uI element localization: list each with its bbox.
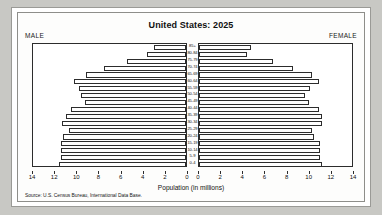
table-row	[33, 121, 186, 126]
table-row	[199, 155, 352, 160]
axis-tick-label: 2	[163, 174, 166, 180]
bar-male-20-24	[63, 134, 186, 139]
table-row	[199, 100, 352, 105]
pyramid-plot: 85+80-8475-7970-7465-6960-6455-5950-5445…	[18, 43, 364, 171]
bar-female-45-49	[199, 100, 309, 105]
table-row	[199, 121, 352, 126]
bar-male-70-74	[104, 66, 186, 71]
bar-female-25-29	[199, 128, 312, 133]
bar-female-5-9	[199, 155, 320, 160]
axis-tick-label: 14	[350, 174, 357, 180]
bar-female-85+	[199, 45, 251, 50]
table-row	[199, 107, 352, 112]
bar-female-60-64	[199, 79, 319, 84]
axis-tick-label: 14	[29, 174, 36, 180]
age-group-label: 60-64	[187, 79, 198, 83]
age-group-label: 15-19	[187, 141, 198, 145]
table-row	[33, 66, 186, 71]
table-row	[199, 114, 352, 119]
table-row	[33, 141, 186, 146]
age-group-label: 65-69	[187, 72, 198, 76]
age-group-label: 10-14	[187, 148, 198, 152]
age-group-label: 20-24	[187, 134, 198, 138]
age-group-label: 40-44	[187, 106, 198, 110]
table-row	[33, 134, 186, 139]
age-group-label: 5-9	[187, 154, 198, 158]
bar-female-35-39	[199, 114, 322, 119]
table-row	[33, 45, 186, 50]
age-group-label: 35-39	[187, 113, 198, 117]
table-row	[199, 59, 352, 64]
age-group-label: 45-49	[187, 99, 198, 103]
age-group-label: 75-79	[187, 58, 198, 62]
table-row	[33, 107, 186, 112]
chart-card: United States: 2025 MALE FEMALE 85+80-84…	[11, 7, 371, 207]
bar-male-85+	[154, 45, 186, 50]
table-row	[199, 148, 352, 153]
bar-male-50-54	[81, 93, 186, 98]
axis-tick-label: 2	[218, 174, 221, 180]
axis-tick-label: 12	[328, 174, 335, 180]
bar-male-60-64	[74, 79, 186, 84]
bar-female-65-69	[199, 72, 312, 77]
axis-tick-label: 10	[73, 174, 80, 180]
bar-female-30-34	[199, 121, 322, 126]
bar-female-0-4	[199, 162, 322, 167]
axis-tick-label: 12	[51, 174, 58, 180]
axis-tick-label: 4	[141, 174, 144, 180]
table-row	[33, 155, 186, 160]
axis-tick-label: 6	[263, 174, 266, 180]
bar-male-40-44	[71, 107, 186, 112]
table-row	[33, 162, 186, 167]
table-row	[199, 162, 352, 167]
bar-male-45-49	[85, 100, 186, 105]
table-row	[199, 52, 352, 57]
table-row	[33, 72, 186, 77]
bar-male-30-34	[62, 121, 186, 126]
bar-male-55-59	[79, 86, 186, 91]
bar-female-10-14	[199, 148, 320, 153]
bar-female-75-79	[199, 59, 273, 64]
table-row	[33, 100, 186, 105]
bar-male-25-29	[69, 128, 186, 133]
bar-female-40-44	[199, 107, 319, 112]
bar-female-55-59	[199, 86, 310, 91]
table-row	[33, 79, 186, 84]
bar-female-80-84	[199, 52, 247, 57]
table-row	[199, 79, 352, 84]
age-group-label: 30-34	[187, 120, 198, 124]
age-group-label: 0-4	[187, 161, 198, 165]
bar-female-15-19	[199, 141, 320, 146]
age-group-labels: 85+80-8475-7970-7465-6960-6455-5950-5445…	[187, 43, 198, 167]
bar-male-0-4	[59, 162, 186, 167]
age-group-label: 80-84	[187, 51, 198, 55]
table-row	[33, 93, 186, 98]
table-row	[33, 52, 186, 57]
source-note: Source: U.S. Census Bureau, Internationa…	[25, 193, 142, 198]
table-row	[199, 45, 352, 50]
axis-caption: Population (in millions)	[18, 184, 364, 191]
female-axis: 02468101214	[198, 171, 353, 183]
table-row	[199, 134, 352, 139]
bar-male-75-79	[127, 59, 186, 64]
female-panel	[198, 43, 353, 167]
table-row	[199, 66, 352, 71]
table-row	[33, 59, 186, 64]
axis-tick-label: 4	[241, 174, 244, 180]
table-row	[33, 148, 186, 153]
axis-tick-label: 6	[119, 174, 122, 180]
age-group-label: 55-59	[187, 86, 198, 90]
bar-male-5-9	[61, 155, 186, 160]
bar-female-20-24	[199, 134, 314, 139]
age-group-label: 50-54	[187, 92, 198, 96]
axis-tick-label: 8	[97, 174, 100, 180]
bar-male-15-19	[61, 141, 186, 146]
age-group-label: 25-29	[187, 127, 198, 131]
female-axis-header: FEMALE	[329, 32, 357, 39]
table-row	[199, 141, 352, 146]
bar-male-10-14	[61, 148, 186, 153]
page-title: United States: 2025	[18, 20, 364, 30]
age-group-label: 70-74	[187, 65, 198, 69]
male-axis-header: MALE	[25, 32, 44, 39]
axis-tick-label: 0	[196, 174, 199, 180]
